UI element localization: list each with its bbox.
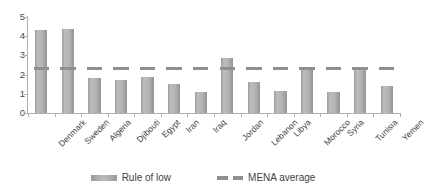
y-axis-tick-mark bbox=[24, 75, 28, 76]
x-axis-label-denmark: Denmark bbox=[57, 118, 88, 149]
x-axis-tick-mark bbox=[161, 113, 162, 117]
x-axis-tick-mark bbox=[320, 113, 321, 117]
y-axis-tick-mark bbox=[24, 17, 28, 18]
x-axis-label-iraq: Iraq bbox=[211, 118, 228, 135]
y-axis-tick-mark bbox=[24, 94, 28, 95]
x-axis-tick-mark bbox=[400, 113, 401, 117]
x-axis-tick-mark bbox=[55, 113, 56, 117]
dash-segment bbox=[233, 176, 244, 180]
x-axis-tick-mark bbox=[108, 113, 109, 117]
x-axis-label-algeria: Algeria bbox=[108, 118, 133, 143]
x-axis-tick-mark bbox=[214, 113, 215, 117]
x-axis-label-tunisia: Tunisia bbox=[374, 118, 400, 144]
x-axis-label-iran: Iran bbox=[184, 118, 201, 135]
bar-swatch-icon bbox=[91, 175, 117, 181]
x-axis-tick-mark bbox=[373, 113, 374, 117]
legend-item-rule-of-low: Rule of low bbox=[91, 173, 171, 183]
x-axis-tick-mark bbox=[187, 113, 188, 117]
x-axis-tick-mark bbox=[81, 113, 82, 117]
x-axis-label-sweden: Sweden bbox=[83, 118, 111, 146]
y-axis-tick-mark bbox=[24, 55, 28, 56]
x-axis-label-yemen: Yemen bbox=[400, 118, 425, 143]
x-axis-tick-mark bbox=[267, 113, 268, 117]
legend-label-rule-of-low: Rule of low bbox=[122, 173, 171, 183]
legend-item-mena-average: MENA average bbox=[217, 173, 315, 183]
legend-label-mena-average: MENA average bbox=[248, 173, 315, 183]
x-axis-tick-mark bbox=[347, 113, 348, 117]
x-axis-tick-mark bbox=[241, 113, 242, 117]
dash-segment bbox=[217, 176, 228, 180]
dashed-line-swatch-icon bbox=[217, 176, 243, 180]
x-axis-tick-mark bbox=[28, 113, 29, 117]
x-axis-label-jordan: Jordan bbox=[241, 118, 266, 143]
x-axis-label-djibouti: Djibouti bbox=[135, 118, 161, 144]
x-axis-tick-mark bbox=[134, 113, 135, 117]
x-axis-label-egypt: Egypt bbox=[160, 118, 182, 140]
chart-legend: Rule of low MENA average bbox=[0, 171, 406, 185]
y-axis-tick-mark bbox=[24, 36, 28, 37]
x-axis-tick-mark bbox=[294, 113, 295, 117]
